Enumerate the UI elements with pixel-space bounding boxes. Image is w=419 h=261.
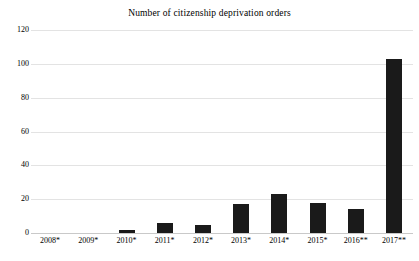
- bar: [348, 209, 364, 233]
- bar: [195, 225, 211, 233]
- bar-chart: Number of citizenship deprivation orders…: [0, 0, 419, 261]
- y-axis-tick-label: 20: [3, 195, 29, 203]
- bar-slot: [69, 30, 107, 233]
- x-axis-tick-label: 2010*: [107, 236, 145, 246]
- y-axis-tick-label: 40: [3, 161, 29, 169]
- bar-slot: [146, 30, 184, 233]
- x-axis: 2008*2009*2010*2011*2012*2013*2014*2015*…: [31, 236, 413, 252]
- y-axis-tick-label: 120: [3, 26, 29, 34]
- x-axis-tick-label: 2011*: [146, 236, 184, 246]
- x-axis-tick-label: 2015*: [298, 236, 336, 246]
- bar: [310, 203, 326, 233]
- x-axis-tick-label: 2014*: [260, 236, 298, 246]
- x-axis-tick-label: 2008*: [31, 236, 69, 246]
- plot-area: [31, 30, 413, 233]
- x-axis-tick-label: 2012*: [184, 236, 222, 246]
- y-axis-tick-label: 0: [3, 229, 29, 237]
- y-axis: 020406080100120: [0, 30, 29, 233]
- bar-slot: [298, 30, 336, 233]
- bar-slot: [222, 30, 260, 233]
- bar: [271, 194, 287, 233]
- y-axis-tick-label: 100: [3, 60, 29, 68]
- chart-title: Number of citizenship deprivation orders: [0, 7, 419, 19]
- bar-slot: [31, 30, 69, 233]
- x-axis-tick-label: 2017**: [375, 236, 413, 246]
- bar: [386, 59, 402, 233]
- bars-group: [31, 30, 413, 233]
- x-axis-tick-label: 2016**: [337, 236, 375, 246]
- bar: [233, 204, 249, 233]
- bar: [119, 230, 135, 233]
- axis-baseline: [31, 233, 413, 234]
- bar-slot: [337, 30, 375, 233]
- bar-slot: [107, 30, 145, 233]
- bar: [157, 223, 173, 233]
- x-axis-tick-label: 2013*: [222, 236, 260, 246]
- bar-slot: [375, 30, 413, 233]
- y-axis-tick-label: 80: [3, 94, 29, 102]
- y-axis-tick-label: 60: [3, 128, 29, 136]
- bar-slot: [184, 30, 222, 233]
- bar-slot: [260, 30, 298, 233]
- x-axis-tick-label: 2009*: [69, 236, 107, 246]
